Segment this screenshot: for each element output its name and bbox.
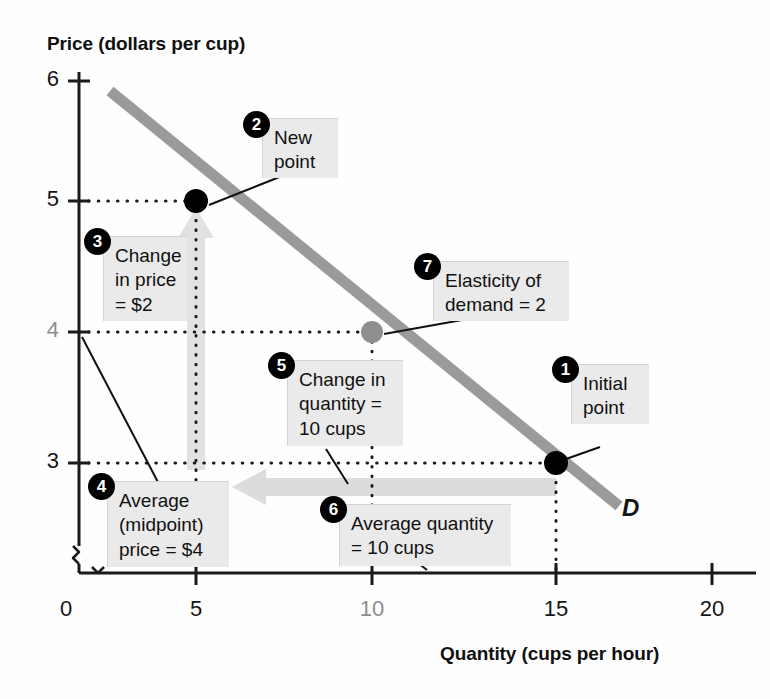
callout-initial-point: Initial point bbox=[571, 364, 649, 424]
x-tick-label-5: 5 bbox=[176, 596, 216, 622]
y-tick-label-4: 4 bbox=[33, 317, 59, 343]
callout-elasticity: Elasticity of demand = 2 bbox=[433, 261, 569, 321]
y-tick-label-5: 5 bbox=[33, 186, 59, 212]
callout-badge-2: 2 bbox=[243, 111, 270, 138]
point-initial bbox=[544, 451, 568, 475]
callout-badge-5: 5 bbox=[268, 352, 295, 379]
callout-average-quantity: Average quantity = 10 cups bbox=[339, 504, 511, 566]
elasticity-demand-figure: Price (dollars per cup) Quantity (cups p… bbox=[0, 0, 770, 699]
change-in-quantity-arrow bbox=[232, 469, 556, 505]
x-tick-label-10: 10 bbox=[352, 596, 392, 622]
point-new bbox=[184, 189, 208, 213]
callout-average-price: Average (midpoint) price = $4 bbox=[107, 481, 229, 567]
demand-curve-label: D bbox=[622, 494, 639, 522]
y-tick-label-3: 3 bbox=[33, 448, 59, 474]
callout-badge-7: 7 bbox=[414, 253, 441, 280]
x-tick-label-20: 20 bbox=[692, 596, 732, 622]
y-axis-title: Price (dollars per cup) bbox=[47, 33, 245, 55]
x-tick-label-0: 0 bbox=[46, 596, 86, 622]
callout-badge-3: 3 bbox=[84, 228, 111, 255]
callout-badge-6: 6 bbox=[320, 496, 347, 523]
x-axis-title: Quantity (cups per hour) bbox=[440, 643, 659, 665]
callout-change-in-price: Change in price = $2 bbox=[103, 236, 187, 321]
y-tick-label-6: 6 bbox=[33, 66, 59, 92]
x-tick-label-15: 15 bbox=[536, 596, 576, 622]
callout-new-point: New point bbox=[262, 118, 338, 178]
point-midpoint bbox=[361, 321, 383, 343]
chart-canvas bbox=[0, 0, 770, 699]
callout-change-in-quantity: Change in quantity = 10 cups bbox=[287, 360, 403, 446]
callout-badge-4: 4 bbox=[88, 473, 115, 500]
callout-badge-1: 1 bbox=[552, 356, 579, 383]
